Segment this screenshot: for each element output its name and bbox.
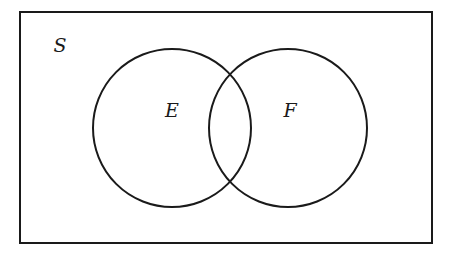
venn-diagram-svg: S E F: [0, 0, 460, 255]
set-e-circle: [93, 49, 251, 207]
set-f-circle: [209, 49, 367, 207]
universe-label: S: [53, 34, 66, 56]
universe-rectangle: [20, 12, 432, 243]
set-f-label: F: [282, 99, 297, 121]
set-e-label: E: [164, 99, 179, 121]
venn-diagram: S E F: [0, 0, 460, 255]
